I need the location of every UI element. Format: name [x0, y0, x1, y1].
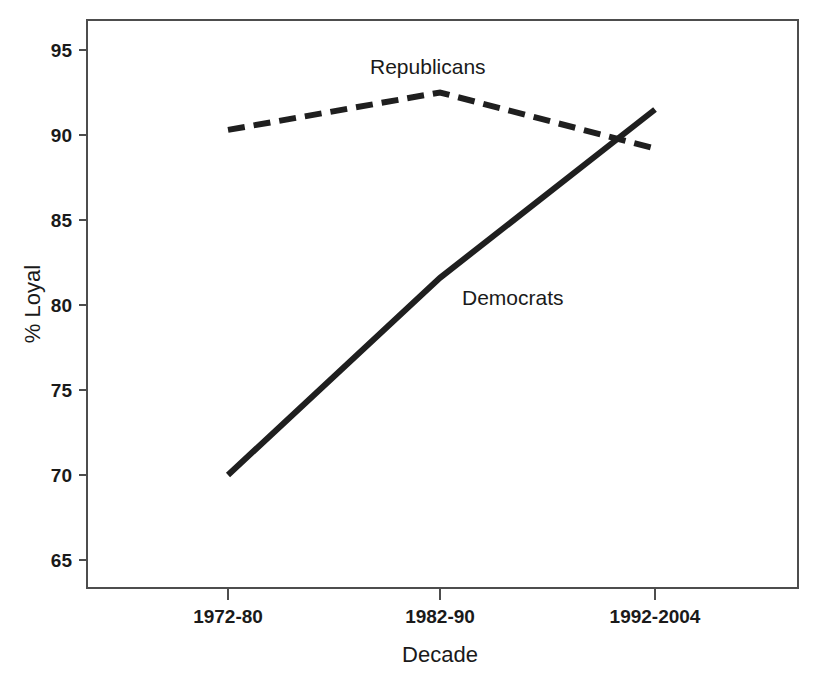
x-axis-title: Decade — [402, 642, 478, 667]
y-tick-label-90: 90 — [51, 125, 72, 146]
y-tick-label-65: 65 — [51, 550, 73, 571]
line-chart: 65 70 75 80 85 90 95 % Loyal 1972-80 198… — [0, 0, 817, 683]
y-tick-label-80: 80 — [51, 295, 72, 316]
series-label-democrats: Democrats — [462, 286, 564, 309]
series-line-democrats — [228, 110, 655, 476]
y-tick-label-75: 75 — [51, 380, 73, 401]
chart-container: 65 70 75 80 85 90 95 % Loyal 1972-80 198… — [0, 0, 817, 683]
series-label-republicans: Republicans — [370, 55, 486, 78]
y-tick-label-70: 70 — [51, 465, 72, 486]
series-line-republicans — [228, 93, 655, 149]
y-axis-title: % Loyal — [20, 265, 45, 343]
y-tick-label-95: 95 — [51, 40, 73, 61]
x-tick-label-1: 1982-90 — [405, 606, 475, 627]
plot-frame — [87, 20, 798, 588]
x-tick-label-2: 1992-2004 — [610, 606, 701, 627]
x-tick-label-0: 1972-80 — [193, 606, 263, 627]
y-tick-label-85: 85 — [51, 210, 73, 231]
